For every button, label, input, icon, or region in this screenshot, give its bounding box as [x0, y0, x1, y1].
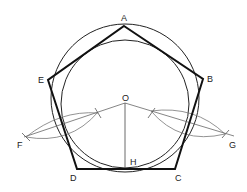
- label-e: E: [38, 75, 44, 85]
- label-h: H: [130, 157, 137, 167]
- label-d: D: [70, 173, 77, 183]
- label-o: O: [122, 93, 129, 103]
- tick-mark: [22, 133, 30, 141]
- label-b: B: [207, 74, 213, 84]
- line-o-g: [125, 103, 234, 136]
- tick-mark: [148, 108, 155, 118]
- label-g: G: [229, 140, 236, 150]
- label-a: A: [121, 13, 127, 23]
- pentagon-diagram: A B C D E F G O H: [0, 0, 247, 192]
- label-f: F: [17, 140, 23, 150]
- label-c: C: [175, 173, 182, 183]
- line-o-f: [24, 103, 125, 137]
